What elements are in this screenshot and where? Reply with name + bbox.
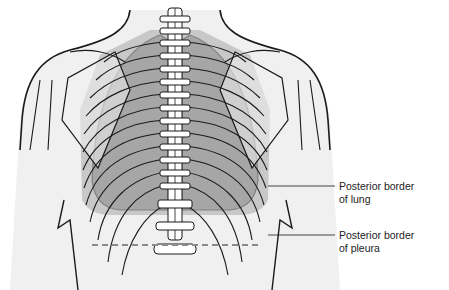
thorax-diagram: Posterior border of lung Posterior borde… (0, 0, 449, 290)
label-line: Posterior border (339, 180, 414, 193)
label-line: Posterior border (339, 229, 414, 242)
label-posterior-border-pleura: Posterior border of pleura (339, 229, 414, 254)
label-line: of pleura (339, 242, 414, 255)
label-line: of lung (339, 193, 414, 206)
label-posterior-border-lung: Posterior border of lung (339, 180, 414, 205)
